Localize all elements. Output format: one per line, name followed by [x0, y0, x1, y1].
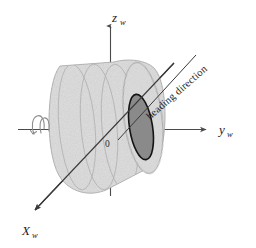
axis-y-label-group: y w — [217, 122, 233, 139]
wheel-body — [49, 60, 169, 193]
axis-x-subscript: w — [32, 230, 38, 240]
origin-label: 0 — [105, 139, 110, 149]
axis-y-label: y — [217, 122, 225, 137]
axis-z-label-group: z w — [111, 10, 126, 27]
axis-z-subscript: w — [120, 17, 126, 27]
axis-y-subscript: w — [227, 129, 233, 139]
figure-root: heading direction 0 z w y w X w — [0, 0, 256, 248]
coordinate-frame-diagram: heading direction 0 z w y w X w — [0, 0, 256, 248]
axis-x-label-group: X w — [21, 223, 38, 240]
rotation-curl-icon — [31, 116, 50, 134]
axis-z-label: z — [111, 10, 117, 25]
axis-x-label: X — [21, 223, 31, 238]
